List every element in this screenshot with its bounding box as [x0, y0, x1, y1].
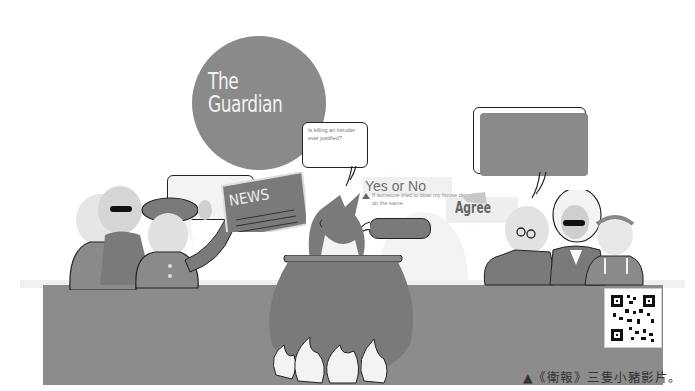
wolf-icon — [300, 185, 380, 265]
right-people-group-icon — [455, 190, 665, 290]
qr-code[interactable] — [604, 288, 662, 348]
image-caption: ▲《衛報》三隻小豬影片。 — [523, 367, 682, 386]
qr-code-icon — [605, 289, 661, 347]
cooking-pot-icon — [262, 255, 422, 391]
empty-speech-bubble-right-fill — [480, 113, 588, 176]
newspaper-icon: NEWS — [218, 172, 306, 232]
left-people-group-icon — [60, 180, 240, 290]
guardian-logo-text: The Guardian — [208, 70, 282, 116]
question-speech-bubble: Is killing an intruder ever justified? — [302, 122, 368, 168]
